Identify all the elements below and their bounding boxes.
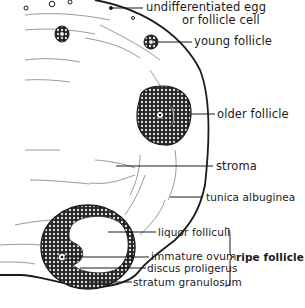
older-follicle bbox=[137, 86, 191, 145]
label-tunica-albuginea: tunica albuginea bbox=[206, 191, 295, 204]
undifferentiated-eggs bbox=[24, 0, 135, 20]
label-stroma: stroma bbox=[216, 160, 257, 173]
label-older-follicle: older follicle bbox=[217, 108, 289, 121]
label-liquor-folliculi: liquor folliculi bbox=[158, 226, 230, 239]
label-stratum-granulosum: stratum granulosum bbox=[133, 276, 242, 289]
label-ripe-follicle: ripe follicle bbox=[236, 251, 304, 264]
young-follicle bbox=[144, 35, 158, 49]
label-discus-proligerus: discus proligerus bbox=[147, 262, 238, 275]
primordial-follicle bbox=[55, 26, 69, 42]
label-young-follicle: young follicle bbox=[194, 35, 272, 48]
ripe-follicle bbox=[41, 205, 135, 289]
label-undifferentiated-egg-line2: or follicle cell bbox=[182, 14, 260, 27]
